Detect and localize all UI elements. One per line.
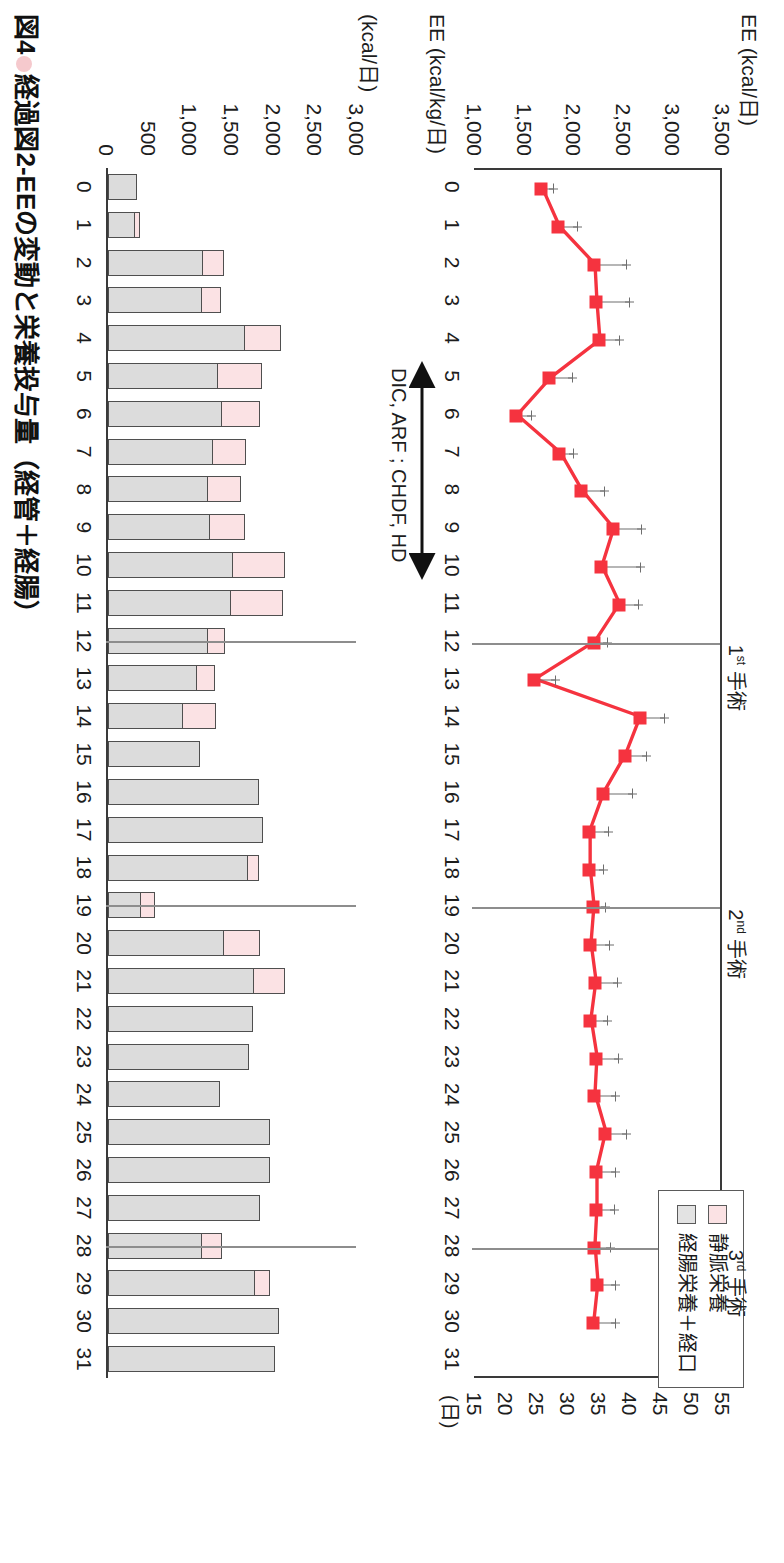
nutrition-x-tick: 0 [72,181,96,193]
ee-data-point [588,1090,601,1103]
bar-segment-parenteral [255,1270,270,1296]
bar-segment-parenteral [213,439,246,465]
nutrition-bar-group [108,703,216,729]
ee-x-tick: 1 [440,219,464,231]
legend-item: 経腸栄養＋経口 [671,1205,702,1373]
bar-segment-parenteral [203,250,224,276]
nutrition-y-tick: 2,500 [302,103,326,156]
ee-data-point [575,485,588,498]
ee-data-point [590,296,603,309]
ee-data-point [590,1052,603,1065]
surgery-line [472,907,720,909]
nutrition-x-tick: 24 [72,1083,96,1106]
ee-data-point [618,750,631,763]
bar-segment-parenteral [136,212,141,238]
nutrition-bar-group [108,1346,275,1372]
nutrition-y-tick: 1,500 [219,103,243,156]
nutrition-x-tick: 13 [72,667,96,690]
ee-x-tick: 24 [440,1083,464,1106]
nutrition-x-tick: 23 [72,1045,96,1068]
ee-data-point [552,220,565,233]
nutrition-bar-group [108,325,281,351]
surgery-text: 手術 [725,934,747,980]
bar-segment-parenteral [248,855,259,881]
bar-segment-enteral [108,1119,270,1145]
caption-text: 経過図2-EEの変動と栄養投与量（経管＋経腸） [11,74,41,626]
surgery-line [106,1246,356,1248]
bar-segment-enteral [108,174,137,200]
bar-segment-enteral [108,325,246,351]
surgery-ordinal: 1st [725,645,747,665]
nutrition-x-tick: 16 [72,780,96,803]
surgery-line [472,643,720,645]
ee-x-tick: 3 [440,295,464,307]
ee-x-tick: 30 [440,1310,464,1333]
nutrition-bar-group [108,1308,279,1334]
ee-data-point [596,787,609,800]
ee-x-tick: 27 [440,1196,464,1219]
ee-x-tick: 25 [440,1121,464,1144]
bar-segment-enteral [108,1270,255,1296]
nutrition-x-tick: 17 [72,818,96,841]
bar-segment-enteral [108,476,208,502]
ee-left-tick: 1,000 [462,103,486,156]
ee-data-point [590,1203,603,1216]
ee-x-tick: 29 [440,1272,464,1295]
nutrition-axis-title: (kcal/日) [356,14,386,92]
bar-segment-parenteral [246,325,282,351]
bar-segment-enteral [108,855,248,881]
nutrition-bar-group [108,174,137,200]
ee-x-tick: 12 [440,629,464,652]
ee-x-tick: 13 [440,667,464,690]
nutrition-x-tick: 28 [72,1234,96,1257]
nutrition-x-tick: 19 [72,894,96,917]
nutrition-y-tick: 2,000 [261,103,285,156]
bar-segment-parenteral [197,665,215,691]
ee-data-point [590,1166,603,1179]
nutrition-y-tick: 3,000 [344,103,368,156]
bar-segment-parenteral [183,703,216,729]
nutrition-y-tick: 500 [136,121,160,156]
nutrition-bar-group [108,1119,270,1145]
surgery-ordinal: 3rd [725,1250,747,1272]
ee-left-tick: 3,000 [660,103,684,156]
nutrition-bar-group [108,552,285,578]
nutrition-x-tick: 11 [72,592,96,614]
nutrition-x-tick: 3 [72,295,96,307]
nutrition-bar-group [108,212,141,238]
nutrition-x-tick: 5 [72,370,96,382]
bar-segment-parenteral [254,968,285,994]
bar-segment-enteral [108,590,231,616]
bar-segment-parenteral [210,514,245,540]
nutrition-bar-group [108,1006,253,1032]
ee-data-point [584,939,597,952]
ee-left-tick: 3,500 [710,103,734,156]
surgery-label: 3rd 手術 [723,1250,752,1317]
ee-data-point [583,825,596,838]
nutrition-y-tick: 1,000 [177,103,201,156]
nutrition-x-tick: 15 [72,742,96,765]
ee-x-tick: 2 [440,257,464,269]
nutrition-bar-group [108,363,262,389]
ee-x-tick: 31 [440,1347,464,1370]
ee-data-point [592,334,605,347]
ee-x-axis-title: (日) [437,1395,466,1428]
surgery-line [106,641,356,643]
nutrition-x-tick: 9 [72,521,96,533]
bar-segment-enteral [108,212,136,238]
surgery-line [106,905,356,907]
ee-left-axis-title: EE (kcal/日) [736,14,766,126]
nutrition-x-tick: 30 [72,1310,96,1333]
bar-segment-enteral [108,817,263,843]
nutrition-bar-group [108,665,215,691]
ee-x-tick: 16 [440,780,464,803]
ee-x-tick: 20 [440,931,464,954]
nutrition-x-tick: 27 [72,1196,96,1219]
bar-segment-enteral [108,1081,221,1107]
bar-segment-parenteral [233,552,285,578]
nutrition-bar-group [108,590,283,616]
legend-swatch-icon [708,1205,727,1224]
nutrition-x-tick: 25 [72,1121,96,1144]
nutrition-bar-group [108,1081,221,1107]
ee-x-tick: 23 [440,1045,464,1068]
